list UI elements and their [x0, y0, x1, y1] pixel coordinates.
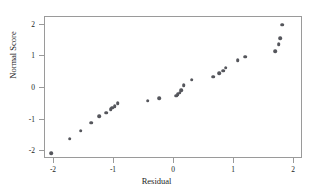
data-point	[105, 111, 109, 115]
data-point	[236, 59, 240, 63]
y-axis-tick-mark	[39, 55, 44, 56]
data-point	[279, 37, 283, 41]
y-axis-tick-label: -2	[17, 146, 35, 155]
y-axis-tick-mark	[39, 119, 44, 120]
data-point	[146, 99, 150, 103]
x-axis-tick-mark	[293, 158, 294, 163]
x-axis-tick-mark	[113, 158, 114, 163]
data-point	[157, 96, 161, 100]
y-axis-tick-label: -1	[17, 114, 35, 123]
data-point	[273, 50, 277, 54]
normal-probability-plot: -2-1012-2-1012 Normal Score Residual	[0, 0, 313, 192]
data-point	[49, 151, 53, 155]
data-point	[280, 23, 284, 27]
x-axis-tick-label: 2	[283, 165, 303, 174]
y-axis-tick-label: 1	[17, 51, 35, 60]
plot-area	[44, 16, 302, 158]
data-point	[211, 75, 215, 79]
x-axis-tick-mark	[173, 158, 174, 163]
data-point	[243, 55, 247, 59]
data-point	[277, 42, 281, 46]
x-axis-tick-label: 1	[223, 165, 243, 174]
data-point	[68, 137, 72, 141]
y-axis-tick-mark	[39, 87, 44, 88]
y-axis-label: Normal Score	[8, 10, 18, 100]
data-point	[116, 101, 120, 105]
y-axis-tick-mark	[39, 150, 44, 151]
x-axis-tick-label: -1	[103, 165, 123, 174]
data-point	[79, 129, 83, 133]
x-axis-tick-mark	[233, 158, 234, 163]
data-point	[217, 72, 221, 76]
data-point	[180, 88, 184, 92]
data-point	[224, 66, 228, 70]
y-axis-tick-label: 2	[17, 19, 35, 28]
y-axis-tick-label: 0	[17, 83, 35, 92]
x-axis-tick-mark	[53, 158, 54, 163]
x-axis-label: Residual	[0, 176, 313, 186]
x-axis-tick-label: 0	[163, 165, 183, 174]
y-axis-tick-mark	[39, 24, 44, 25]
data-point	[182, 83, 186, 87]
data-point	[190, 78, 194, 82]
x-axis-tick-label: -2	[43, 165, 63, 174]
data-point	[97, 114, 101, 118]
data-point	[90, 121, 94, 125]
